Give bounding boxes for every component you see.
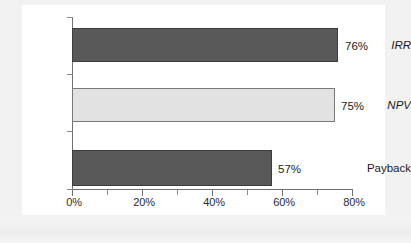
x-axis-label-20: 20% xyxy=(133,196,155,208)
category-label-payback: Payback xyxy=(349,162,411,174)
x-axis-tick-minor xyxy=(177,190,178,195)
value-label-irr: 76% xyxy=(345,40,368,52)
x-axis-label-0: 0% xyxy=(66,196,82,208)
value-label-payback: 57% xyxy=(278,163,301,175)
y-axis-tick xyxy=(67,74,73,75)
x-axis-label-40: 40% xyxy=(203,196,225,208)
bar-payback[interactable] xyxy=(72,150,272,186)
bar-irr[interactable] xyxy=(72,28,338,62)
bar-npv[interactable] xyxy=(72,88,335,122)
x-axis-tick-minor xyxy=(107,190,108,195)
x-axis-tick-minor xyxy=(317,190,318,195)
y-axis-tick xyxy=(67,131,73,132)
scan-artifact-strip xyxy=(0,217,411,243)
y-axis-tick xyxy=(67,17,73,18)
chart-plot-area: 0% 20% 40% 60% 80% IRR NPV Payback 76% 7… xyxy=(0,0,411,243)
x-axis-tick-minor xyxy=(247,190,248,195)
chart-figure: 0% 20% 40% 60% 80% IRR NPV Payback 76% 7… xyxy=(0,0,411,243)
x-axis-label-80: 80% xyxy=(343,196,365,208)
value-label-npv: 75% xyxy=(341,100,364,112)
x-axis-label-60: 60% xyxy=(273,196,295,208)
